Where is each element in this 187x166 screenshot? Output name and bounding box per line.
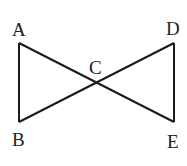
label-b: B <box>12 129 25 150</box>
label-d: D <box>166 18 180 39</box>
label-c: C <box>89 57 102 78</box>
bowtie-diagram: A B C D E <box>0 0 187 166</box>
diagram-canvas: A B C D E <box>0 0 187 166</box>
label-e: E <box>167 131 179 152</box>
label-a: A <box>12 19 26 40</box>
